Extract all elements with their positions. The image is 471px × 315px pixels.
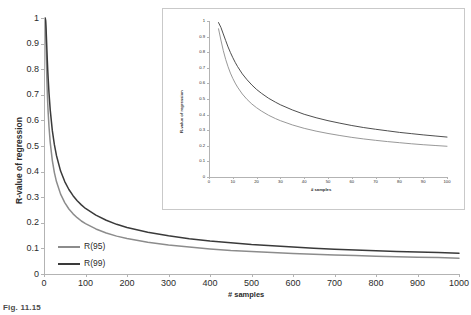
- y-tick-label: 0.9: [193, 34, 205, 39]
- x-tick-mark: [335, 274, 336, 277]
- y-tick-mark: [207, 21, 209, 22]
- y-tick-mark: [41, 274, 44, 275]
- inset-chart-curves: [209, 21, 447, 177]
- y-tick-mark: [41, 223, 44, 224]
- x-tick-label: 100: [427, 179, 467, 184]
- y-tick-label: 0.3: [19, 192, 39, 202]
- inset-chart-y-axis-title: R-value of regression: [179, 90, 184, 133]
- x-tick-mark: [459, 274, 460, 277]
- x-tick-label: 500: [232, 278, 272, 288]
- y-tick-mark: [41, 120, 44, 121]
- figure-container: R-value of regression 010020030040050060…: [0, 0, 471, 315]
- y-tick-mark: [207, 177, 209, 178]
- inset-chart-plot-area: [209, 21, 447, 177]
- x-tick-label: 300: [149, 278, 189, 288]
- y-tick-label: 1: [193, 18, 205, 23]
- y-tick-label: 0.2: [193, 143, 205, 148]
- y-tick-label: 0.7: [193, 65, 205, 70]
- main-chart-x-axis-title: # samples: [228, 290, 264, 299]
- y-tick-label: 0.6: [193, 80, 205, 85]
- y-tick-mark: [41, 197, 44, 198]
- y-tick-mark: [207, 161, 209, 162]
- x-tick-label: 1000: [439, 278, 471, 288]
- y-tick-label: 0.1: [19, 243, 39, 253]
- figure-caption-stub: Fig. 11.15: [3, 303, 41, 312]
- y-tick-mark: [207, 37, 209, 38]
- x-tick-label: 0: [24, 278, 64, 288]
- x-tick-mark: [376, 274, 377, 277]
- legend-item-label: R(99): [84, 258, 105, 268]
- y-tick-mark: [207, 68, 209, 69]
- y-tick-mark: [41, 146, 44, 147]
- y-tick-mark: [207, 130, 209, 131]
- y-tick-label: 0.2: [19, 217, 39, 227]
- y-tick-label: 0.4: [19, 166, 39, 176]
- y-tick-label: 0: [19, 269, 39, 279]
- y-tick-label: 0: [193, 174, 205, 179]
- main-chart-legend: R(95)R(99): [58, 241, 128, 275]
- x-tick-mark: [418, 274, 419, 277]
- x-tick-mark: [293, 274, 294, 277]
- y-tick-mark: [41, 44, 44, 45]
- x-tick-mark: [44, 274, 45, 277]
- y-tick-mark: [41, 18, 44, 19]
- y-tick-label: 0.4: [193, 112, 205, 117]
- y-tick-label: 0.1: [193, 158, 205, 163]
- legend-item[interactable]: R(95): [58, 241, 128, 253]
- x-tick-label: 900: [398, 278, 438, 288]
- x-tick-mark: [210, 274, 211, 277]
- main-chart-y-axis-line: [44, 18, 45, 275]
- x-tick-mark: [169, 274, 170, 277]
- y-tick-label: 0.8: [193, 49, 205, 54]
- y-tick-mark: [207, 146, 209, 147]
- x-tick-label: 700: [315, 278, 355, 288]
- x-tick-label: 800: [356, 278, 396, 288]
- legend-item[interactable]: R(99): [58, 258, 128, 270]
- x-tick-label: 200: [107, 278, 147, 288]
- inset-chart-x-axis-title: # samples: [311, 187, 331, 192]
- series-line-r99: [219, 23, 447, 138]
- y-tick-label: 0.6: [19, 115, 39, 125]
- x-tick-label: 600: [273, 278, 313, 288]
- y-tick-mark: [207, 115, 209, 116]
- y-tick-mark: [41, 69, 44, 70]
- y-tick-mark: [207, 99, 209, 100]
- legend-color-swatch: [58, 263, 80, 265]
- y-tick-mark: [41, 248, 44, 249]
- inset-chart-y-axis-line: [209, 21, 210, 178]
- y-tick-mark: [207, 83, 209, 84]
- y-tick-label: 0.5: [19, 141, 39, 151]
- x-tick-label: 100: [66, 278, 106, 288]
- series-line-r95: [219, 29, 447, 146]
- y-tick-label: 1: [19, 13, 39, 23]
- legend-color-swatch: [58, 246, 80, 248]
- y-tick-label: 0.7: [19, 89, 39, 99]
- y-tick-label: 0.3: [193, 127, 205, 132]
- x-tick-label: 400: [190, 278, 230, 288]
- y-tick-label: 0.9: [19, 38, 39, 48]
- y-tick-mark: [41, 95, 44, 96]
- x-tick-mark: [252, 274, 253, 277]
- y-tick-label: 0.5: [193, 96, 205, 101]
- y-tick-label: 0.8: [19, 64, 39, 74]
- y-tick-mark: [207, 52, 209, 53]
- y-tick-mark: [41, 172, 44, 173]
- legend-item-label: R(95): [84, 241, 105, 251]
- inset-chart: R-value of regression 010203040506070809…: [162, 8, 465, 210]
